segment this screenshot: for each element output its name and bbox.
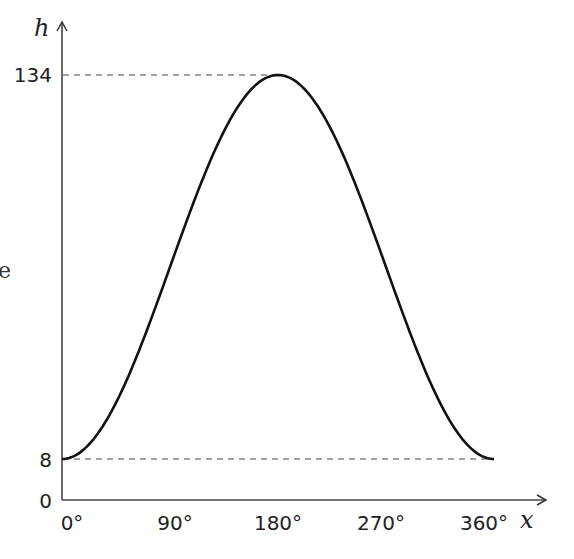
y-axis-label: h (34, 14, 49, 42)
x-tick-90: 90° (157, 511, 192, 535)
y-tick-134: 134 (14, 63, 52, 87)
h-curve (62, 75, 494, 459)
cropped-text-fragment: e (0, 258, 11, 283)
x-axis-label: x (520, 506, 534, 534)
x-tick-360: 360° (460, 511, 508, 535)
x-tick-180: 180° (254, 511, 302, 535)
x-tick-0: 0° (61, 511, 84, 535)
y-tick-0: 0 (39, 489, 52, 513)
chart: h x 134 8 0 0° 90° 180° 270° 360° e (0, 0, 574, 559)
x-tick-270: 270° (357, 511, 405, 535)
y-tick-8: 8 (39, 448, 52, 472)
